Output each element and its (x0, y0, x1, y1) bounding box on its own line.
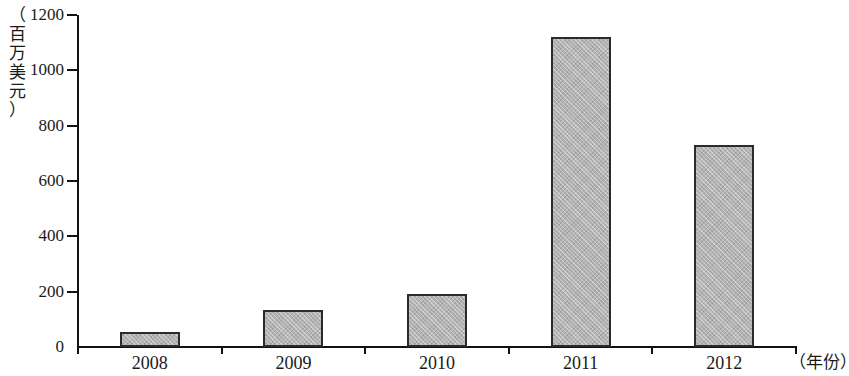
y-axis-tick (67, 125, 77, 127)
x-axis-tick (508, 346, 510, 354)
x-axis-tick (221, 346, 223, 354)
y-axis-tick-label: 400 (18, 227, 64, 244)
x-axis-tick (364, 346, 366, 354)
y-axis-caption-char: 万 (4, 44, 30, 63)
bar-2008 (120, 332, 180, 347)
x-axis-label-2008: 2008 (90, 353, 210, 373)
bar-2009 (263, 310, 323, 347)
y-axis-tick-label: 200 (18, 283, 64, 300)
x-axis-tick (77, 346, 79, 354)
bar-2012 (694, 145, 754, 347)
bar-chart: （ 百 万 美 元 ） 020040060080010001200 200820… (0, 0, 849, 376)
y-axis-tick-label: 1000 (18, 61, 64, 78)
x-axis-tick (651, 346, 653, 354)
x-axis-caption: （年份） (789, 353, 849, 373)
y-axis-caption-char: 百 (4, 25, 30, 44)
y-axis-tick (67, 180, 77, 182)
x-axis-label-2009: 2009 (233, 353, 353, 373)
x-axis-label-2010: 2010 (377, 353, 497, 373)
y-axis-tick-label: 800 (18, 117, 64, 134)
bar-2010 (407, 294, 467, 347)
x-axis-label-2011: 2011 (521, 353, 641, 373)
y-axis-tick-label: 600 (18, 172, 64, 189)
y-axis-tick (67, 235, 77, 237)
y-axis-tick-label: 0 (18, 338, 64, 355)
y-axis-line (77, 15, 79, 348)
y-axis-tick (67, 14, 77, 16)
y-axis-caption-char: 元 (4, 82, 30, 101)
bar-2011 (551, 37, 611, 347)
y-axis-tick (67, 291, 77, 293)
y-axis-tick (67, 69, 77, 71)
x-axis-label-2012: 2012 (664, 353, 784, 373)
y-axis-tick-label: 1200 (18, 6, 64, 23)
